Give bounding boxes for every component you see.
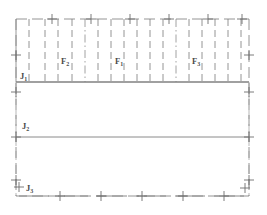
plus-marker xyxy=(244,87,254,97)
plus-marker xyxy=(244,175,254,185)
plus-marker xyxy=(240,183,250,193)
plus-marker xyxy=(203,14,213,24)
plus-marker xyxy=(244,132,254,142)
diagram-svg xyxy=(0,0,267,215)
label-j1: J1 xyxy=(20,72,27,81)
plus-marker xyxy=(11,87,21,97)
plus-marker xyxy=(137,191,147,201)
plus-marker xyxy=(164,14,174,24)
label-f2: F2 xyxy=(61,57,69,66)
label-f3: F3 xyxy=(192,57,200,66)
plus-marker xyxy=(219,191,229,201)
plus-marker xyxy=(55,191,65,201)
label-f2-sub: 2 xyxy=(66,61,69,67)
label-j1-sub: 1 xyxy=(24,76,27,82)
plus-marker xyxy=(86,14,96,24)
label-j3-sub: 3 xyxy=(30,188,33,194)
plus-marker xyxy=(125,14,135,24)
plus-marker xyxy=(237,14,247,24)
label-j3: J3 xyxy=(26,184,33,193)
label-f3-sub: 3 xyxy=(197,61,200,67)
vertical-dashed-traces xyxy=(29,19,241,82)
plus-marker xyxy=(11,132,21,142)
label-j2-sub: 2 xyxy=(26,126,29,132)
label-f1: F1 xyxy=(115,57,123,66)
plus-marker xyxy=(96,191,106,201)
fault-dashdot-lines xyxy=(85,19,176,82)
plus-marker xyxy=(11,175,21,185)
plus-marker xyxy=(178,191,188,201)
diagram-canvas: J1 J2 J3 F1 F2 F3 xyxy=(0,0,267,215)
label-f1-sub: 1 xyxy=(120,61,123,67)
lower-zone-dashed-verticals xyxy=(16,137,249,196)
plus-marker xyxy=(47,14,57,24)
plus-marker xyxy=(11,50,21,60)
middle-zone-dashed-verticals xyxy=(16,82,249,137)
frame-border xyxy=(16,19,249,196)
plus-marker xyxy=(244,50,254,60)
plus-marker xyxy=(14,182,24,192)
label-j2: J2 xyxy=(22,122,29,131)
bottom-plus-markers xyxy=(14,182,250,201)
